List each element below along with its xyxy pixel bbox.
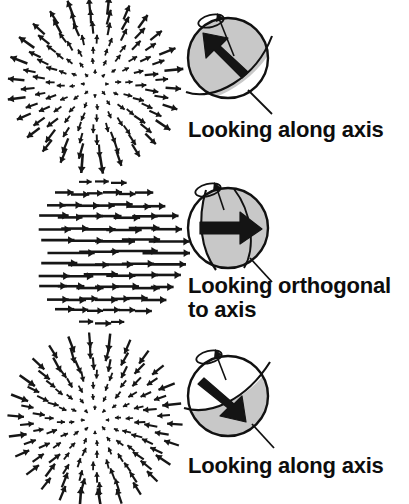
- leader-line-bottom: [252, 424, 274, 448]
- sphere-looking-along-axis-bottom: [176, 344, 286, 454]
- sphere-looking-orthogonal-to-axis: [176, 176, 286, 286]
- panel-middle: Looking orthogonal to axis: [0, 168, 409, 336]
- sphere-shaded-region-top: [180, 0, 276, 104]
- leader-line-top: [248, 90, 272, 114]
- panel-top: Looking along axis: [0, 0, 409, 168]
- caption-looking-along-axis-top: Looking along axis: [188, 118, 406, 142]
- uniform-translation-flow-field: [14, 172, 176, 332]
- sphere-looking-along-axis-top: [176, 8, 286, 118]
- figure-root: Looking along axis: [0, 0, 409, 504]
- flow-field-svg-translation: [14, 172, 176, 332]
- flow-field-svg-contraction: [14, 340, 176, 500]
- radial-contraction-flow-field: [14, 340, 176, 500]
- radial-expansion-flow-field: [14, 4, 176, 164]
- caption-looking-along-axis-bottom: Looking along axis: [188, 454, 406, 478]
- panel-bottom: Looking along axis: [0, 336, 409, 504]
- flow-field-svg-expansion: [14, 4, 176, 164]
- caption-looking-orthogonal-to-axis: Looking orthogonal to axis: [188, 274, 406, 321]
